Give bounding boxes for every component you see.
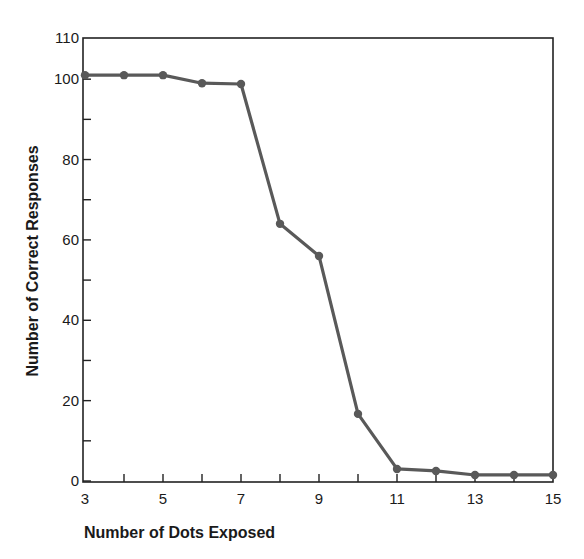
line-chart: 020406080100110 3579111315 — [0, 0, 584, 559]
y-tick-label: 20 — [62, 392, 79, 409]
data-series — [81, 71, 557, 479]
data-point-marker — [549, 471, 557, 479]
data-point-marker — [159, 71, 167, 79]
y-tick-label: 110 — [55, 29, 79, 46]
x-tick-label: 15 — [545, 490, 562, 507]
y-tick-label: 40 — [62, 311, 79, 328]
data-point-marker — [276, 220, 284, 228]
x-axis-ticks: 3579111315 — [81, 474, 562, 507]
data-point-marker — [237, 80, 245, 88]
x-axis-label: Number of Dots Exposed — [84, 524, 275, 542]
x-tick-label: 13 — [467, 490, 484, 507]
data-point-marker — [198, 79, 206, 87]
series-line — [85, 75, 553, 475]
x-tick-label: 5 — [159, 490, 167, 507]
y-tick-label: 0 — [71, 472, 79, 489]
y-tick-label: 100 — [54, 70, 79, 87]
data-point-marker — [354, 410, 362, 418]
x-tick-label: 3 — [81, 490, 89, 507]
y-tick-label: 80 — [62, 151, 79, 168]
data-point-marker — [393, 465, 401, 473]
data-point-marker — [315, 252, 323, 260]
y-axis-label: Number of Correct Responses — [24, 145, 42, 376]
y-tick-label: 60 — [62, 231, 79, 248]
data-point-marker — [81, 71, 89, 79]
y-axis-ticks: 020406080100110 — [54, 29, 91, 489]
data-point-marker — [120, 71, 128, 79]
x-tick-label: 9 — [315, 490, 323, 507]
x-tick-label: 7 — [237, 490, 245, 507]
y-axis-label-container: Number of Correct Responses — [22, 38, 44, 483]
x-tick-label: 11 — [389, 490, 405, 507]
data-point-marker — [471, 471, 479, 479]
data-point-marker — [432, 467, 440, 475]
data-point-marker — [510, 471, 518, 479]
